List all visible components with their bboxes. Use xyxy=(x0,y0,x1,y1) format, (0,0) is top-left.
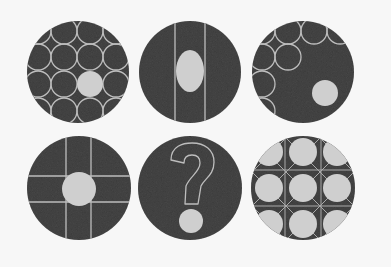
tile-1 xyxy=(25,18,129,124)
filled-circle xyxy=(62,172,96,206)
filled-circle xyxy=(179,209,203,233)
tile-6 xyxy=(250,136,356,242)
tile-5 xyxy=(138,136,242,240)
filled-oval xyxy=(176,50,204,92)
tile-4 xyxy=(20,130,140,245)
filled-circle xyxy=(77,71,103,97)
lattice-pattern xyxy=(250,136,356,242)
tile-2 xyxy=(139,15,241,130)
filled-circle xyxy=(312,80,338,106)
tile-3 xyxy=(249,18,354,124)
puzzle-canvas xyxy=(0,0,391,267)
puzzle-figure xyxy=(0,0,391,267)
